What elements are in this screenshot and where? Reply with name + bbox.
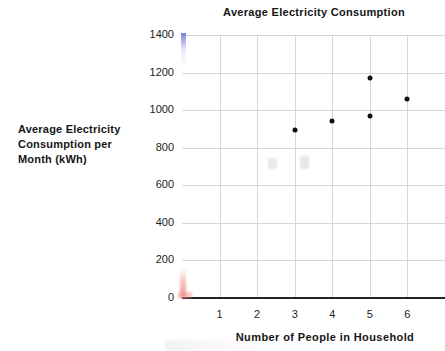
gridline-vertical bbox=[407, 35, 408, 298]
y-tick-label: 600 bbox=[134, 178, 174, 190]
x-tick-label: 2 bbox=[247, 308, 267, 320]
x-axis-title: Number of People in Household bbox=[205, 331, 445, 343]
y-tick-label: 200 bbox=[134, 253, 174, 265]
plot-area bbox=[182, 35, 445, 298]
gridline-vertical bbox=[370, 35, 371, 298]
y-tick-label: 1400 bbox=[134, 28, 174, 40]
x-tick-label: 4 bbox=[322, 308, 342, 320]
y-tick-label: 400 bbox=[134, 216, 174, 228]
gridline-horizontal bbox=[182, 35, 445, 36]
y-axis-title-line-1: Average Electricity bbox=[18, 122, 156, 137]
gridline-horizontal bbox=[182, 260, 445, 261]
gridline-horizontal bbox=[182, 73, 445, 74]
gridline-vertical bbox=[220, 35, 221, 298]
gridline-horizontal bbox=[182, 110, 445, 111]
x-tick-label: 3 bbox=[285, 308, 305, 320]
gridline-horizontal bbox=[182, 223, 445, 224]
data-point bbox=[405, 96, 410, 101]
scatter-chart: Average Electricity Consumption Average … bbox=[0, 0, 445, 351]
data-point bbox=[292, 127, 297, 132]
y-axis-title-line-3: Month (kWh) bbox=[18, 152, 156, 167]
x-axis-line bbox=[182, 297, 445, 299]
x-tick-label: 5 bbox=[360, 308, 380, 320]
gridline-vertical bbox=[257, 35, 258, 298]
data-point bbox=[367, 76, 372, 81]
gridline-vertical bbox=[295, 35, 296, 298]
gridline-horizontal bbox=[182, 148, 445, 149]
y-tick-label: 1000 bbox=[134, 103, 174, 115]
y-tick-label: 1200 bbox=[134, 66, 174, 78]
y-tick-label: 800 bbox=[134, 141, 174, 153]
x-tick-label: 1 bbox=[210, 308, 230, 320]
chart-title: Average Electricity Consumption bbox=[185, 6, 443, 18]
x-tick-label: 6 bbox=[397, 308, 417, 320]
y-tick-label: 0 bbox=[134, 291, 174, 303]
data-point bbox=[367, 113, 372, 118]
gridline-vertical bbox=[332, 35, 333, 298]
data-point bbox=[330, 119, 335, 124]
gridline-horizontal bbox=[182, 185, 445, 186]
